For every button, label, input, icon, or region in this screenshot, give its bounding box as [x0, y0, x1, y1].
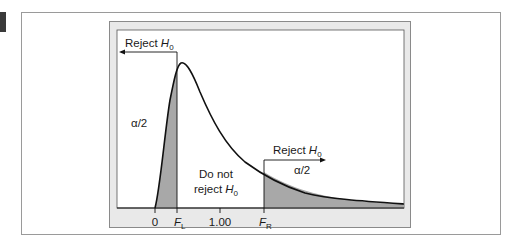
f-distribution-diagram: Reject H0 α/2 Do not reject H0 Reject H0… — [0, 0, 518, 249]
right-alpha-label: α/2 — [294, 164, 310, 176]
do-not-label: Do not — [199, 168, 234, 180]
tick-label-fr: FR — [259, 216, 272, 231]
tick-label-fl: FL — [174, 216, 186, 231]
tick-label-0: 0 — [152, 216, 158, 228]
left-alpha-label: α/2 — [131, 117, 147, 129]
tick-label-1: 1.00 — [209, 216, 231, 228]
